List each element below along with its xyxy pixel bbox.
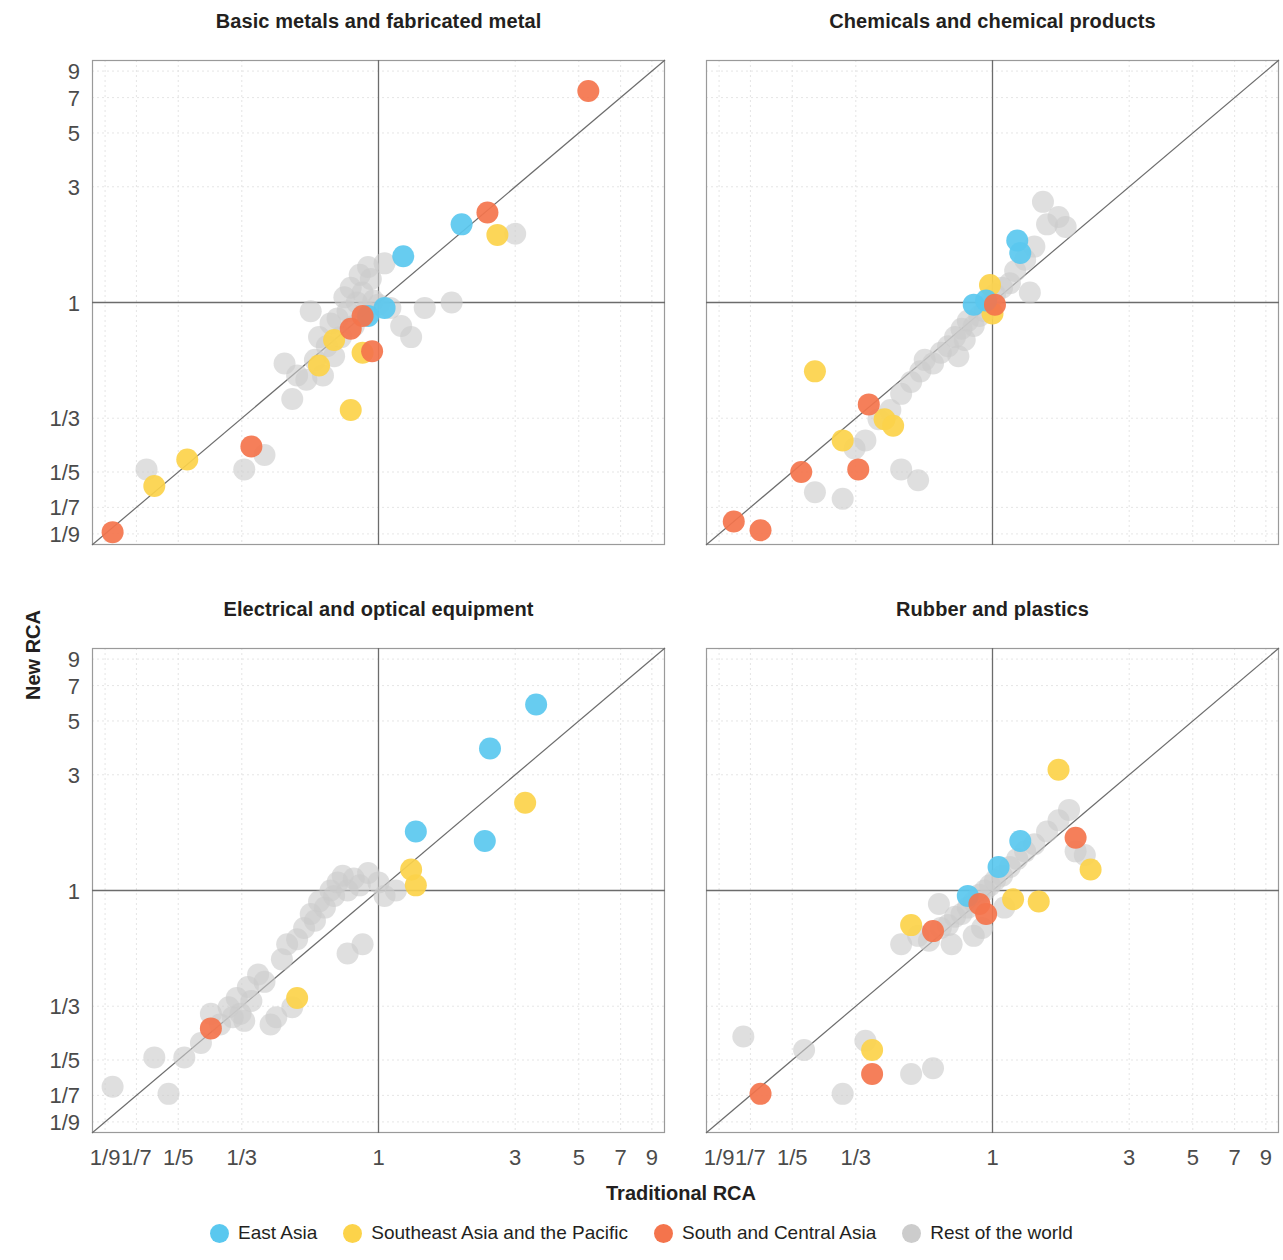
data-point: [102, 521, 124, 543]
data-point: [514, 792, 536, 814]
x-axis-label: Traditional RCA: [541, 1182, 821, 1205]
data-point: [793, 1039, 815, 1061]
panel-title: Electrical and optical equipment: [92, 598, 665, 621]
data-point: [293, 917, 315, 939]
data-point: [963, 315, 985, 337]
y-tick-label: 3: [68, 763, 80, 788]
data-point: [999, 856, 1021, 878]
data-point: [486, 224, 508, 246]
x-tick-label: 1/7: [121, 1145, 152, 1170]
data-point: [974, 880, 996, 902]
x-tick-label: 1: [372, 1145, 384, 1170]
y-tick-label: 1/5: [49, 1048, 80, 1073]
data-point: [102, 1076, 124, 1098]
data-point: [854, 429, 876, 451]
data-point: [323, 345, 345, 367]
data-point: [975, 903, 997, 925]
data-point: [253, 971, 275, 993]
legend-item: South and Central Asia: [654, 1222, 876, 1244]
legend-item: Southeast Asia and the Pacific: [343, 1222, 628, 1244]
y-axis-label: New RCA: [22, 610, 45, 700]
data-point: [963, 891, 985, 913]
data-point: [723, 510, 745, 532]
legend-label: Rest of the world: [930, 1222, 1073, 1244]
reference-line-identity: [706, 648, 1279, 1133]
data-point: [357, 862, 379, 884]
panel-title: Rubber and plastics: [706, 598, 1279, 621]
data-point: [991, 277, 1013, 299]
data-point: [286, 364, 308, 386]
figure-root: New RCA Traditional RCA Basic metals and…: [0, 0, 1283, 1260]
legend-label: Southeast Asia and the Pacific: [371, 1222, 628, 1244]
data-point: [158, 1083, 180, 1105]
legend-swatch-circle-icon: [654, 1224, 673, 1243]
data-point: [963, 294, 985, 316]
data-point: [368, 871, 390, 893]
data-point: [1009, 242, 1031, 264]
y-tick-label: 9: [68, 647, 80, 672]
data-point: [222, 1006, 244, 1028]
data-point: [233, 1010, 255, 1032]
data-point: [941, 933, 963, 955]
data-point: [333, 286, 355, 308]
x-tick-label: 5: [573, 1145, 585, 1170]
data-point: [861, 1063, 883, 1085]
data-point: [900, 914, 922, 936]
data-point: [362, 289, 384, 311]
data-point: [340, 277, 362, 299]
y-tick-label: 1/9: [49, 1110, 80, 1135]
x-tick-label: 1/5: [163, 1145, 194, 1170]
y-tick-label: 7: [68, 86, 80, 111]
data-point: [968, 305, 990, 327]
y-tick-label: 5: [68, 709, 80, 734]
panel-title: Chemicals and chemical products: [706, 10, 1279, 33]
data-point: [308, 326, 330, 348]
data-point: [937, 914, 959, 936]
data-point: [260, 1014, 282, 1036]
data-point: [357, 256, 379, 278]
data-point: [330, 326, 352, 348]
scatter-plot: 1/91/71/51/313579: [644, 642, 1283, 1179]
data-point: [861, 1039, 883, 1061]
data-point: [928, 893, 950, 915]
data-point: [323, 885, 345, 907]
data-point: [349, 264, 371, 286]
legend-item: Rest of the world: [902, 1222, 1073, 1244]
data-point: [504, 223, 526, 245]
data-point: [308, 891, 330, 913]
data-point: [1074, 844, 1096, 866]
data-point: [173, 1046, 195, 1068]
data-point: [854, 1030, 876, 1052]
data-point: [984, 283, 1006, 305]
data-point: [271, 948, 293, 970]
x-tick-label: 1/5: [777, 1145, 808, 1170]
data-point: [441, 292, 463, 314]
x-tick-label: 1/3: [226, 1145, 257, 1170]
data-point: [750, 1083, 772, 1105]
data-point: [1006, 230, 1028, 252]
data-point: [352, 281, 374, 303]
data-point: [988, 856, 1010, 878]
data-point: [337, 942, 359, 964]
data-point: [323, 329, 345, 351]
x-tick-label: 7: [614, 1145, 626, 1170]
data-point: [265, 1006, 287, 1028]
data-point: [226, 987, 248, 1009]
y-tick-label: 1: [68, 291, 80, 316]
data-point: [525, 693, 547, 715]
y-tick-label: 1/3: [49, 994, 80, 1019]
data-point: [1080, 859, 1102, 881]
reference-line-identity: [92, 60, 665, 545]
data-point: [947, 345, 969, 367]
data-point: [930, 342, 952, 364]
x-tick-label: 1/9: [90, 1145, 121, 1170]
data-point: [922, 920, 944, 942]
data-point: [922, 1057, 944, 1079]
data-point: [971, 917, 993, 939]
data-point: [1006, 848, 1028, 870]
data-point: [979, 874, 1001, 896]
data-point: [844, 437, 866, 459]
data-point: [944, 326, 966, 348]
plot-background: [706, 60, 1279, 545]
data-point: [308, 354, 330, 376]
